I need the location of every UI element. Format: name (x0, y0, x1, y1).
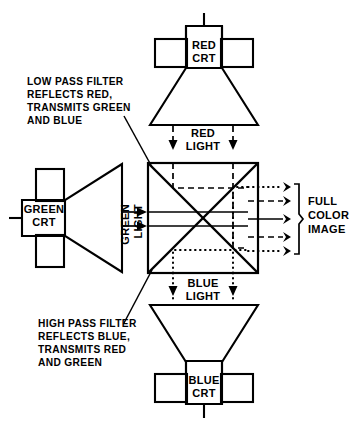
low-pass-leader-line (124, 116, 152, 167)
green-light-beams: GREEN LIGHT (119, 204, 147, 245)
red-crt-group: RED CRT (150, 13, 258, 125)
high-pass-note-line3: TRANSMITS RED (38, 344, 126, 355)
high-pass-note-line1: HIGH PASS FILTER (38, 318, 137, 329)
output-ray-4-arrowhead (283, 232, 291, 242)
blue-light-beams: BLUE LIGHT (169, 273, 238, 302)
high-pass-filter-annotation: HIGH PASS FILTER REFLECTS BLUE, TRANSMIT… (38, 270, 152, 368)
optical-combiner-diagram: RED CRT RED LIGHT GREEN CRT GREEN LIGHT (0, 0, 355, 430)
green-crt-yoke-bottom (36, 235, 64, 267)
blue-light-label-line1: BLUE (187, 277, 218, 289)
diagram-canvas: RED CRT RED LIGHT GREEN CRT GREEN LIGHT (0, 0, 355, 430)
red-light-label-line2: LIGHT (186, 140, 221, 152)
high-pass-note-line4: AND GREEN (38, 357, 102, 368)
output-ray-2-arrowhead (283, 196, 291, 206)
red-beam-left-arrowhead (169, 140, 178, 150)
red-crt-yoke-left (155, 39, 187, 67)
red-crt-label-line1: RED (192, 39, 216, 51)
blue-crt-group: BLUE CRT (150, 305, 258, 418)
red-beam-right-arrowhead (229, 140, 238, 150)
blue-beam-right-arrowhead (229, 286, 238, 296)
low-pass-note-line4: AND BLUE (27, 115, 82, 126)
output-label-line3: IMAGE (308, 223, 346, 235)
output-ray-5-arrowhead (283, 246, 291, 256)
green-crt-label-line2: CRT (32, 216, 56, 228)
output-label-line1: FULL (308, 195, 337, 207)
red-crt-label-line2: CRT (192, 52, 216, 64)
output-ray-3-arrowhead (283, 214, 291, 224)
green-crt-yoke-top (36, 169, 64, 201)
blue-light-label-line2: LIGHT (186, 290, 221, 302)
green-crt-label-line1: GREEN (24, 203, 65, 215)
low-pass-note-line3: TRANSMITS GREEN (27, 102, 131, 113)
blue-crt-yoke-left (155, 374, 187, 402)
high-pass-note-line2: REFLECTS BLUE, (38, 331, 130, 342)
green-light-label-line2: LIGHT (132, 204, 144, 239)
green-crt-group: GREEN CRT (9, 164, 122, 272)
red-crt-funnel (150, 68, 258, 125)
output-label-line2: COLOR (308, 209, 349, 221)
dichroic-prism-cube (148, 163, 258, 273)
blue-crt-label-line1: BLUE (188, 374, 219, 386)
red-light-label-line1: RED (191, 127, 215, 139)
low-pass-note-line1: LOW PASS FILTER (27, 76, 124, 87)
red-crt-yoke-right (221, 39, 253, 67)
low-pass-note-line2: REFLECTS RED, (27, 89, 113, 100)
red-light-beams: RED LIGHT (169, 126, 238, 152)
blue-crt-label-line2: CRT (192, 387, 216, 399)
green-crt-funnel (65, 164, 122, 272)
high-pass-leader-line (124, 270, 152, 323)
green-light-label-line1: GREEN (119, 204, 131, 245)
low-pass-filter-annotation: LOW PASS FILTER REFLECTS RED, TRANSMITS … (27, 76, 152, 167)
full-color-image-callout: FULL COLOR IMAGE (294, 184, 349, 254)
output-ray-1-arrowhead (283, 182, 291, 192)
output-brace (294, 184, 303, 254)
blue-crt-yoke-right (221, 374, 253, 402)
blue-beam-left-arrowhead (169, 286, 178, 296)
blue-crt-funnel (150, 305, 258, 362)
